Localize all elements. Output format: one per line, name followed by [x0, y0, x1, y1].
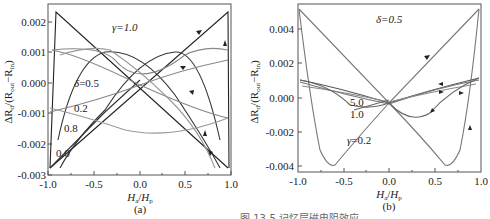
x-tick-label: 0.5 — [428, 175, 442, 187]
y-axis-title-b: ΔRd/(Rout−Rin) — [248, 60, 262, 124]
y-tick-label: 0.002 — [21, 16, 46, 28]
x-tick-label: 1.0 — [224, 178, 238, 190]
figure-canvas: 0.002 0.001 0.000 -0.001 -0.002 -0.003 -… — [0, 0, 490, 219]
label-delta-0.5: δ=0.5 — [74, 77, 100, 89]
curves-b — [299, 9, 479, 165]
y-tick-label: 0.001 — [21, 46, 46, 58]
x-tick-label: -1.0 — [39, 178, 57, 190]
label-1.0: 1.0 — [350, 108, 364, 120]
figure-caption: 图 13-5 记忆层磁电阻效应 — [240, 210, 359, 219]
panel-a: 0.002 0.001 0.000 -0.001 -0.002 -0.003 -… — [2, 4, 238, 216]
y-tick-label: -0.004 — [266, 160, 295, 172]
y-tick-label: -0.001 — [18, 107, 46, 119]
curves-a — [50, 12, 229, 168]
annotation-gamma: γ=1.0 — [112, 21, 138, 33]
x-tick-label: 0.5 — [178, 178, 192, 190]
y-tick-label: 0.004 — [269, 23, 294, 35]
label-5.0: 5.0 — [350, 96, 364, 108]
annotation-delta: δ=0.5 — [376, 13, 403, 25]
y-tick-label: -0.002 — [18, 138, 46, 150]
label-0.8: 0.8 — [64, 122, 78, 134]
panel-label-a: (a) — [134, 203, 147, 216]
y-tick-label: 0.000 — [269, 92, 294, 104]
x-tick-label: -0.5 — [85, 178, 103, 190]
y-tick-label: 0.000 — [21, 77, 46, 89]
panel-label-b: (b) — [383, 200, 396, 213]
x-tick-label: -1.0 — [289, 175, 307, 187]
x-tick-label: 0.0 — [382, 175, 396, 187]
y-axis-title-a: ΔRd/(Rout−Rin) — [2, 60, 16, 124]
label-0.2: 0.2 — [74, 102, 88, 114]
y-tick-label: -0.002 — [266, 126, 294, 138]
x-tick-label: 0.0 — [133, 178, 147, 190]
x-tick-label: 1.0 — [474, 175, 488, 187]
panel-b: 0.004 0.002 0.000 -0.002 -0.004 -1.0 -0.… — [248, 4, 488, 213]
x-tick-label: -0.5 — [335, 175, 353, 187]
y-tick-label: 0.002 — [269, 57, 294, 69]
label-gamma-0.2: γ=0.2 — [347, 134, 371, 146]
label-0.0: 0.0 — [56, 147, 70, 159]
